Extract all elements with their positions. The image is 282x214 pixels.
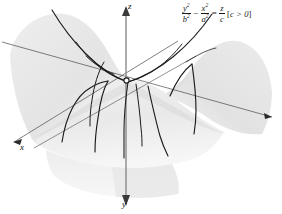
equation-equals-sign: = (212, 9, 217, 18)
equation-condition: [c > 0] (227, 10, 251, 19)
axis-label-z: z (128, 2, 132, 11)
equation-annotation: y2 b2 − x2 a2 = z c [c > 0] (182, 4, 251, 24)
surface-plot-svg (0, 0, 282, 214)
term3-numerator: z (220, 3, 223, 13)
axis-label-y: y (122, 200, 126, 209)
term2-numerator-exponent: 2 (205, 2, 208, 8)
equation-term-3: z c (219, 4, 224, 24)
condition-text: c > 0 (230, 9, 249, 19)
equation-term-1: y2 b2 (182, 4, 191, 24)
term1-denominator-exponent: 2 (187, 13, 190, 19)
surface-front-drape-shade (112, 164, 179, 198)
origin-saddle-point-marker (124, 78, 129, 83)
figure-hyperbolic-paraboloid: y2 b2 − x2 a2 = z c [c > 0] z x y (0, 0, 282, 214)
term2-denominator-exponent: 2 (206, 13, 209, 19)
axis-label-x: x (20, 143, 24, 152)
equation-term-2: x2 a2 (201, 4, 210, 24)
condition-close-bracket: ] (248, 9, 251, 19)
term1-numerator-exponent: 2 (187, 2, 190, 8)
term3-denominator: c (220, 14, 224, 24)
equation-operator-minus: − (193, 9, 198, 18)
